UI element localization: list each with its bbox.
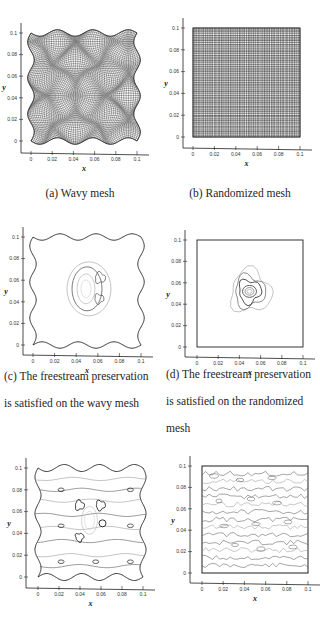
x-tick-label: 0.06 <box>261 586 271 592</box>
contour-line <box>202 555 308 559</box>
caption-c: (c) The freestream preservation is satis… <box>4 363 154 417</box>
y-axis-label: y <box>3 287 8 296</box>
contour-line <box>257 547 265 551</box>
x-tick-label: 0.1 <box>140 591 147 597</box>
panel-b-randomized-mesh: 00.020.040.060.080.100.020.040.060.080.1… <box>160 0 320 170</box>
y-tick-label: 0.08 <box>9 255 19 261</box>
caption-d: (d) The freestream preservation is satis… <box>166 361 316 442</box>
contour-line <box>35 513 146 516</box>
plot-d: 00.020.040.060.080.100.020.040.060.080.1… <box>160 205 320 360</box>
y-tick-label: 0.02 <box>12 552 22 558</box>
contour-line <box>127 560 133 564</box>
contour-line <box>96 271 106 283</box>
domain-boundary <box>35 465 146 581</box>
x-axis <box>21 153 149 155</box>
x-axis <box>183 148 312 150</box>
y-tick-label: 0.06 <box>176 506 186 512</box>
x-tick-label: 0.04 <box>75 591 85 597</box>
x-tick-label: 0.1 <box>297 151 304 157</box>
contour-line <box>82 506 98 534</box>
x-axis-label: x <box>244 159 249 168</box>
contour-line <box>35 477 146 480</box>
y-tick-label: 0 <box>183 570 186 576</box>
domain-boundary <box>202 466 308 573</box>
domain-boundary <box>30 234 144 348</box>
contour-line <box>36 554 145 557</box>
caption-a-text: (a) Wavy mesh <box>45 187 114 199</box>
contour-line <box>127 524 133 528</box>
plot-c: 00.020.040.060.080.100.020.040.060.080.1… <box>0 205 160 360</box>
contour-line <box>202 479 308 484</box>
contour-line <box>38 539 143 542</box>
x-tick-label: 0.06 <box>90 156 100 162</box>
y-axis-label: y <box>163 79 168 88</box>
panel-a-wavy-mesh: 00.020.040.060.080.100.020.040.060.080.1… <box>0 0 160 170</box>
caption-b-text: (b) Randomized mesh <box>189 187 291 199</box>
y-tick-label: 0.04 <box>9 299 19 305</box>
y-tick-label: 0 <box>178 344 181 350</box>
contour-line <box>202 494 308 499</box>
x-tick-label: 0.04 <box>231 151 241 157</box>
plot-e: 00.020.040.060.080.100.020.040.060.080.1… <box>0 445 160 605</box>
contour-line <box>231 266 274 312</box>
x-tick-label: 0 <box>30 156 33 162</box>
x-tick-label: 0.08 <box>111 156 121 162</box>
panel-f-contour-randomized: 00.020.040.060.080.100.020.040.060.080.1… <box>160 445 320 605</box>
y-tick-label: 0.02 <box>171 322 181 328</box>
x-axis <box>190 583 320 585</box>
contour-line <box>41 565 141 568</box>
x-axis <box>185 357 315 359</box>
contour-line <box>95 294 104 305</box>
contour-line <box>284 520 292 524</box>
caption-b: (b) Randomized mesh <box>160 180 320 207</box>
contour-line <box>247 289 252 293</box>
x-tick-label: 0 <box>192 151 195 157</box>
y-tick-label: 0.02 <box>7 116 17 122</box>
panel-d-contour-randomized: 00.020.040.060.080.100.020.040.060.080.1… <box>160 205 320 360</box>
plot-b: 00.020.040.060.080.100.020.040.060.080.1… <box>160 0 320 170</box>
y-tick-label: 0.04 <box>12 530 22 536</box>
contour-line <box>210 474 219 478</box>
contour-line <box>247 497 255 501</box>
y-tick-label: 0.02 <box>176 548 186 554</box>
y-tick-label: 0 <box>19 574 22 580</box>
y-axis-label: y <box>165 290 170 299</box>
contour-line <box>245 288 254 296</box>
contour-line <box>40 499 141 502</box>
y-tick-label: 0.04 <box>176 527 186 533</box>
x-tick-label: 0.1 <box>305 586 312 592</box>
y-tick-label: 0.1 <box>179 463 186 469</box>
y-tick-label: 0.06 <box>9 277 19 283</box>
contour-line <box>58 560 64 564</box>
y-tick-label: 0.04 <box>171 301 181 307</box>
y-tick-label: 0.04 <box>169 90 179 96</box>
x-tick-label: 0.04 <box>69 156 79 162</box>
caption-d-line-1: (d) The freestream preservation <box>166 361 316 388</box>
y-tick-label: 0.08 <box>12 487 22 493</box>
x-axis-label: x <box>252 594 257 603</box>
x-axis-label: x <box>88 599 93 608</box>
x-axis <box>26 588 155 590</box>
mesh-lines <box>193 28 300 137</box>
y-axis-label: y <box>170 516 175 525</box>
y-axis-label: y <box>1 83 6 92</box>
y-tick-label: 0.1 <box>12 234 19 240</box>
x-tick-label: 0 <box>201 586 204 592</box>
contour-line <box>289 545 297 549</box>
x-tick-label: 0.02 <box>218 586 228 592</box>
y-tick-label: 0.08 <box>169 47 179 53</box>
y-tick-label: 0.06 <box>171 280 181 286</box>
contour-line <box>202 509 308 514</box>
x-tick-label: 0.04 <box>240 586 250 592</box>
contour-line <box>232 543 239 546</box>
x-tick-label: 0.08 <box>274 151 284 157</box>
x-tick-label: 0.06 <box>252 151 262 157</box>
mesh-lines <box>28 30 141 145</box>
caption-a: (a) Wavy mesh <box>0 180 160 207</box>
x-tick-label: 0 <box>37 591 40 597</box>
y-tick-label: 0.02 <box>9 320 19 326</box>
caption-d-line-3: mesh <box>166 415 316 442</box>
contour-line <box>252 522 261 525</box>
contour-line <box>67 262 111 316</box>
x-tick-label: 0.08 <box>117 591 127 597</box>
